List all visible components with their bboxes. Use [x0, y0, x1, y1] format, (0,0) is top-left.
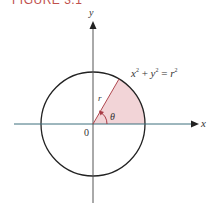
- circle-equation: x2 + y2 = r2: [131, 67, 178, 79]
- angle-label: θ: [110, 112, 115, 122]
- equation-plus: +: [142, 67, 148, 79]
- origin-label: 0: [84, 128, 89, 138]
- equation-x-exp: 2: [136, 67, 139, 73]
- equation-y-exp: 2: [156, 67, 159, 73]
- figure-title: FIGURE 3.1: [12, 0, 82, 7]
- x-axis-arrow-icon: [191, 121, 199, 128]
- circle-diagram: FIGURE 3.1 y x 0 r θ x2 + y2 = r2: [0, 0, 213, 213]
- y-axis-arrow-icon: [90, 21, 97, 29]
- radius-label: r: [98, 94, 102, 103]
- y-axis-label: y: [89, 8, 93, 18]
- diagram-canvas: [0, 0, 213, 213]
- equation-equals: =: [161, 67, 167, 79]
- equation-r-exp: 2: [175, 67, 178, 73]
- x-axis-label: x: [201, 118, 206, 129]
